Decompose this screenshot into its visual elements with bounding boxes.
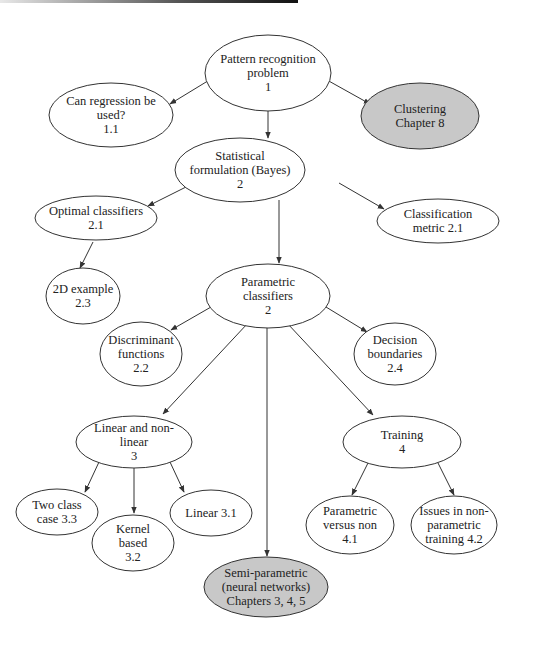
node-n8: ClusteringChapter 8 [361,83,479,149]
node-n22: Discriminantfunctions2.2 [100,322,182,386]
node-n2p: Parametricclassifiers2 [206,264,330,328]
node-label-line: used? [97,108,126,122]
node-n33: Two classcase 3.3 [16,489,98,535]
edge-n4-to-n41 [352,463,368,495]
node-label-line: Optimal classifiers [49,204,143,218]
node-label-line: Parametric [241,275,296,289]
node-label-line: metric 2.1 [413,221,464,235]
node-n11: Can regression beused?1.1 [49,83,173,147]
node-n42: Issues in non-parametrictraining 4.2 [411,496,497,554]
node-label-line: Decision [373,333,418,347]
node-label-line: functions [118,347,165,361]
edge-n3-to-n31 [170,462,184,492]
node-label-line: 3.2 [125,550,141,564]
node-label-line: problem [247,66,289,80]
node-label-line: Classification [404,207,473,221]
node-label-line: Kernel [116,522,151,536]
node-label-line: 2.2 [133,361,149,375]
edge-n1-to-n8 [327,80,370,104]
node-n21: Optimal classifiers2.1 [35,196,157,240]
node-label-line: Chapter 8 [396,116,445,130]
node-n32: Kernelbased3.2 [92,515,174,571]
node-label-line: based [119,536,148,550]
node-label-line: 1 [265,80,271,94]
node-label-line: Linear and non- [94,421,174,435]
edge-n1-to-n11 [170,79,211,104]
node-label-line: training 4.2 [425,532,483,546]
node-label-line: versus non [323,518,378,532]
node-label-line: 2D example [53,282,114,296]
node-label-line: 2 [237,177,243,191]
node-label-line: Chapters 3, 4, 5 [227,594,306,608]
node-label-line: Can regression be [66,94,156,108]
node-label-line: 4 [399,442,406,456]
node-label-line: boundaries [368,347,423,361]
node-label-line: Pattern recognition [220,52,316,66]
nodes-layer: Pattern recognitionproblem1Can regressio… [16,35,499,617]
node-n41: Parametricversus non4.1 [306,496,394,554]
node-n21m: Classificationmetric 2.1 [377,199,499,243]
node-n3: Linear and non-linear3 [76,416,192,468]
node-n1: Pattern recognitionproblem1 [205,35,331,111]
node-label-line: 2 [265,303,271,317]
node-label-line: Two class [32,498,82,512]
node-label-line: 2.1 [88,218,104,232]
node-label-line: classifiers [243,289,293,303]
node-n4: Training4 [343,416,461,468]
node-label-line: Issues in non- [419,504,488,518]
node-n24: Decisionboundaries2.4 [354,323,436,385]
edge-n2p-to-n22 [171,307,211,330]
node-label-line: 3 [131,449,137,463]
node-label-line: formulation (Bayes) [189,163,290,177]
node-label-line: 2.4 [387,361,403,375]
node-label-line: Clustering [394,102,447,116]
edge-n4-to-n42 [438,463,454,495]
edge-n21-to-n23 [80,242,93,268]
node-label-line: 2.3 [75,296,91,310]
edge-n2-to-n21m [339,183,384,209]
node-label-line: 4.1 [342,532,358,546]
edge-n3-to-n33 [85,462,99,492]
node-label-line: 1.1 [103,122,119,136]
node-n2: Statisticalformulation (Bayes)2 [175,138,305,202]
node-label-line: parametric [427,518,481,532]
edge-n2p-to-n24 [326,307,367,332]
node-n31: Linear 3.1 [170,490,252,536]
node-n345: Semi-parametric(neural networks)Chapters… [204,557,328,617]
node-label-line: Statistical [215,149,265,163]
tree-diagram: Pattern recognitionproblem1Can regressio… [0,0,545,647]
node-label-line: Training [381,428,424,442]
node-label-line: case 3.3 [37,512,77,526]
node-label-line: Semi-parametric [224,566,308,580]
node-label-line: Parametric [323,504,378,518]
node-label-line: (neural networks) [222,580,311,594]
node-label-line: Linear 3.1 [185,506,236,520]
node-label-line: Discriminant [108,333,174,347]
node-n23: 2D example2.3 [46,268,120,324]
node-label-line: linear [120,435,149,449]
